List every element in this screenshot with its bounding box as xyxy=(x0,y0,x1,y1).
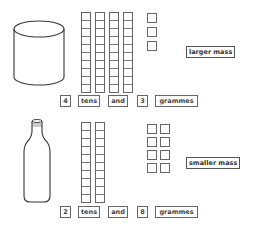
unit-cube xyxy=(160,124,170,134)
tens-value-box: 2 xyxy=(60,206,71,218)
unit-cube xyxy=(160,163,170,173)
unit-cube xyxy=(147,163,157,173)
bottle-icon xyxy=(0,0,254,227)
unit-cube xyxy=(147,137,157,147)
unit-word-box: grammes xyxy=(155,206,198,218)
unit-cube xyxy=(160,137,170,147)
unit-cube xyxy=(147,150,157,160)
ten-rod xyxy=(95,122,105,203)
smaller-mass-label: smaller mass xyxy=(186,157,240,169)
tens-word-box: tens xyxy=(78,206,100,218)
unit-cube xyxy=(160,150,170,160)
unit-cube xyxy=(147,124,157,134)
units-value-box: 8 xyxy=(137,206,148,218)
and-word-box: and xyxy=(108,206,128,218)
ten-rod xyxy=(81,122,91,203)
